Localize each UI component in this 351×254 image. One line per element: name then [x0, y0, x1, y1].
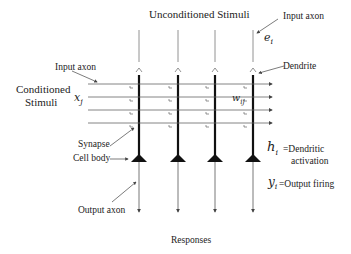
label-input-axon-left: Input axon	[55, 63, 96, 73]
label-output-firing: =Output firing	[279, 180, 334, 190]
label-y-i: yi	[268, 176, 277, 191]
cell-bodies	[131, 154, 261, 162]
label-w-ij: wij	[232, 93, 245, 106]
label-dendrite: Dendrite	[283, 62, 316, 72]
title-unconditioned-stimuli: Unconditioned Stimuli	[149, 9, 250, 20]
label-h-i: hi	[267, 140, 278, 157]
dendrites	[139, 75, 253, 156]
label-activation: activation	[291, 157, 328, 167]
label-cell-body: Cell body	[73, 154, 110, 164]
label-responses: Responses	[171, 236, 211, 246]
synapses	[130, 86, 247, 127]
label-output-axon: Output axon	[78, 206, 125, 216]
label-conditioned-stimuli-line2: Stimuli	[25, 97, 57, 108]
label-synapse: Synapse	[78, 140, 110, 150]
neural-network-diagram	[0, 0, 351, 254]
label-input-axon-top: Input axon	[283, 12, 324, 22]
label-e-i: ei	[264, 32, 273, 46]
output-axons	[139, 162, 253, 212]
label-dendritic: =Dendritic	[283, 145, 324, 155]
unconditioned-input-axons	[136, 30, 256, 72]
label-x-j: xj	[74, 92, 83, 106]
label-conditioned: Conditioned	[16, 84, 70, 95]
